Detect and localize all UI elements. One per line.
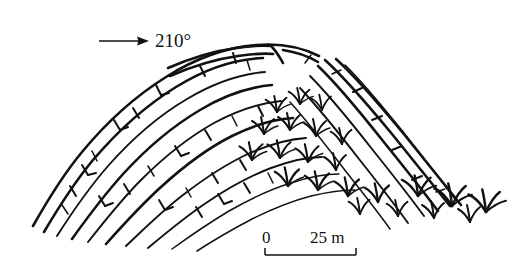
anticline-sketch: 210° [0,0,517,269]
scale-bar-start-label: 0 [262,228,271,247]
canvas-background [0,0,517,269]
bearing-label: 210° [155,30,191,51]
figure-root: 210° [0,0,517,269]
scale-bar-end-label: 25 m [310,228,344,247]
